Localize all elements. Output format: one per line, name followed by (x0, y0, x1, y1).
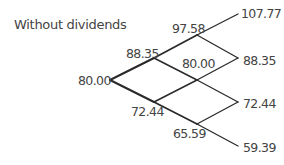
node-updown2-value: 80.00 (182, 56, 215, 71)
tree-lines (0, 0, 284, 165)
node-udd3-value: 72.44 (243, 96, 276, 111)
node-downdown2-value: 65.59 (173, 126, 206, 141)
node-root-value: 80.00 (78, 73, 111, 88)
node-up1-value: 88.35 (126, 46, 159, 61)
node-uuu3-value: 107.77 (241, 6, 281, 21)
node-ddd3-value: 59.39 (243, 140, 276, 155)
node-upup2-value: 97.58 (172, 21, 205, 36)
node-uud3-value: 88.35 (243, 53, 276, 68)
node-down1-value: 72.44 (131, 104, 164, 119)
